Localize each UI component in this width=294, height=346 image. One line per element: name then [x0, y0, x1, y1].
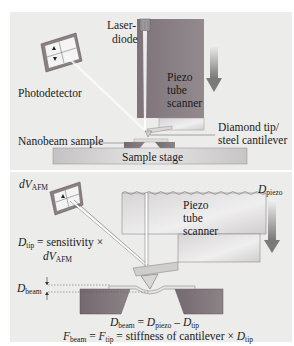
piezo-scanner-base-bottom	[178, 234, 260, 262]
d-tip-equation-2: dVAFM	[43, 250, 72, 266]
piezo-label-bottom-3: scanner	[183, 225, 218, 237]
support-left	[80, 289, 130, 314]
f-beam-equation: Fbeam = Ftip = stiffness of cantilever ×…	[63, 330, 253, 346]
sample-label: Nanobeam sample	[18, 135, 103, 147]
photodetector-icon-bottom	[50, 182, 83, 215]
piezo-label-3: scanner	[167, 97, 202, 109]
nanobeam-sample	[134, 139, 168, 142]
photodetector-label: Photodetector	[18, 87, 82, 99]
piezo-label-2: tube	[167, 84, 187, 96]
diagram-graphics	[0, 0, 294, 346]
down-arrow-icon	[206, 45, 222, 92]
sample-support-left	[124, 142, 145, 148]
tip-label-2: steel cantilever	[218, 134, 287, 146]
laser-label-2: diode	[112, 33, 138, 45]
laser-label: Laser-	[107, 19, 136, 31]
stage-label: Sample stage	[122, 151, 183, 163]
sample-support-right	[155, 142, 175, 148]
diamond-tip	[145, 131, 152, 137]
piezo-label: Piezo	[167, 71, 193, 83]
dv-afm-label: dVAFM	[19, 178, 48, 194]
d-beam-label: Dbeam	[17, 282, 42, 298]
d-piezo-label: Dpiezo	[258, 183, 283, 199]
support-right	[175, 289, 223, 314]
down-arrow-icon-bottom	[264, 200, 280, 253]
cantilever-bottom	[133, 262, 178, 276]
piezo-label-bottom-2: tube	[183, 212, 203, 224]
tip-label: Diamond tip/	[218, 121, 279, 133]
diamond-tip-bottom	[141, 274, 158, 289]
piezo-label-bottom: Piezo	[183, 199, 209, 211]
